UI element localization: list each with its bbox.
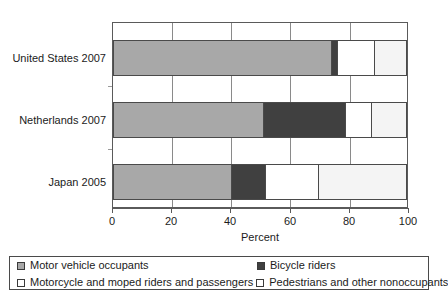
x-tick-80 <box>349 208 350 213</box>
x-tick-60 <box>290 208 291 213</box>
dark-filled-square-icon <box>257 262 265 270</box>
x-tick-0 <box>112 208 113 213</box>
segment-pedestrians-nonoccupants <box>371 102 407 138</box>
legend-row-1: Motor vehicle occupants Bicycle riders <box>10 257 428 274</box>
segment-bicycle-riders <box>231 164 266 200</box>
white-square-icon <box>17 279 25 287</box>
legend-label: Motorcycle and moped riders and passenge… <box>30 277 253 288</box>
x-tick-label-20: 20 <box>151 215 191 227</box>
segment-motorcycle-moped <box>337 40 375 76</box>
x-axis-line <box>112 208 408 209</box>
category-label-japan-2005: Japan 2005 <box>0 176 106 188</box>
segment-bicycle-riders <box>263 102 346 138</box>
axis-minor-tick <box>108 86 112 87</box>
bar-netherlands-2007 <box>113 102 407 138</box>
x-axis-title: Percent <box>112 231 408 243</box>
segment-motor-vehicle-occupants <box>113 102 264 138</box>
bar-japan-2005 <box>113 164 407 200</box>
x-tick-label-0: 0 <box>92 215 132 227</box>
gray-filled-square-icon <box>17 262 25 270</box>
legend-label: Bicycle riders <box>270 260 335 271</box>
segment-pedestrians-nonoccupants <box>318 164 407 200</box>
x-tick-label-40: 40 <box>210 215 250 227</box>
segment-motorcycle-moped <box>265 164 319 200</box>
legend-label: Motor vehicle occupants <box>30 260 149 271</box>
axis-minor-tick <box>108 149 112 150</box>
x-tick-label-100: 100 <box>388 215 428 227</box>
x-tick-20 <box>171 208 172 213</box>
x-tick-100 <box>408 208 409 213</box>
legend-entry-bicycle-riders: Bicycle riders <box>254 260 335 271</box>
segment-motor-vehicle-occupants <box>113 40 332 76</box>
stacked-bar-chart: United States 2007 Netherlands 2007 Japa… <box>0 0 438 248</box>
category-label-netherlands-2007: Netherlands 2007 <box>0 114 106 126</box>
bar-united-states-2007 <box>113 40 407 76</box>
x-tick-40 <box>230 208 231 213</box>
legend-entry-motor-vehicle-occupants: Motor vehicle occupants <box>10 260 254 271</box>
plot-area <box>112 22 408 208</box>
legend-entry-pedestrians-nonoccupants: Pedestrians and other nonoccupants <box>253 277 448 288</box>
legend-row-2: Motorcycle and moped riders and passenge… <box>10 274 428 291</box>
chart-legend: Motor vehicle occupants Bicycle riders M… <box>9 256 429 290</box>
x-tick-label-60: 60 <box>270 215 310 227</box>
segment-motor-vehicle-occupants <box>113 164 232 200</box>
segment-pedestrians-nonoccupants <box>374 40 407 76</box>
light-square-icon <box>256 279 264 287</box>
legend-label: Pedestrians and other nonoccupants <box>269 277 448 288</box>
x-tick-label-80: 80 <box>329 215 369 227</box>
legend-entry-motorcycle-moped: Motorcycle and moped riders and passenge… <box>10 277 253 288</box>
segment-motorcycle-moped <box>345 102 372 138</box>
category-label-united-states-2007: United States 2007 <box>0 52 106 64</box>
